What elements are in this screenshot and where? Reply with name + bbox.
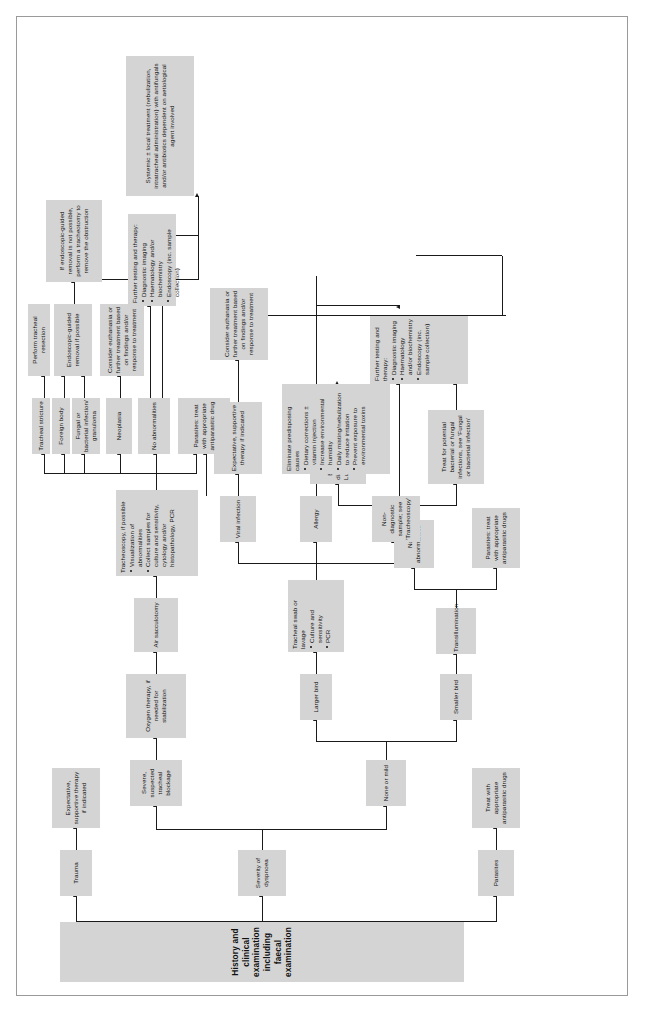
connector-tracheoscopy-neoplasia — [120, 454, 121, 474]
connector-viral-tx — [238, 474, 239, 496]
node-tracheal-swab[interactable]: Tracheal swab or lavage Culture and sens… — [288, 580, 344, 652]
node-neoplasia-label: Neoplasia — [115, 400, 123, 452]
connector-noabnbot-further — [150, 306, 151, 398]
node-severity-of-dyspnoea[interactable]: Severity of dyspnoea — [238, 850, 286, 896]
node-foreign-body-label: Foreign body — [57, 400, 65, 452]
node-endoscopic-removal-label: Endoscopic-guided removal if possible — [65, 306, 81, 374]
connector-severity-severe — [156, 806, 157, 830]
bullet: Daily misting/nebulization to reduce irr… — [335, 387, 351, 465]
node-tracheoscopy-bullets: Visualization of abnormalities Collect s… — [128, 493, 176, 573]
connector-swab-out — [316, 564, 317, 580]
connector-larger-swab — [316, 652, 317, 674]
connector-title-parasites — [496, 896, 497, 922]
node-allergy[interactable]: Allergy — [300, 496, 332, 542]
node-consider-euthanasia-top[interactable]: Consider euthanasia or further treatment… — [210, 288, 268, 360]
connector-oxygen-airsac — [156, 652, 157, 674]
connector-endo-tracheotomy — [74, 282, 75, 304]
node-fungal-label: Fungal or bacterial infection/ granuloma — [74, 400, 98, 452]
node-non-diagnostic-sample[interactable]: Non-diagnostic sample; see 'Tracheoscopy… — [372, 496, 420, 542]
node-none-or-mild-label: None or mild — [382, 762, 390, 804]
node-systemic-treatment-label: Systemic ± local treatment (nebulization… — [144, 58, 176, 194]
connector-swab-viral — [238, 542, 239, 564]
node-neoplasia[interactable]: Neoplasia — [106, 398, 132, 454]
bullet: Collect samples for culture and sensitiv… — [144, 493, 176, 567]
connector-translum-noabn — [414, 568, 415, 590]
connector-noabntop-budgerigar — [338, 484, 339, 506]
connector-title-trauma — [76, 896, 77, 922]
bullet: Dietary corrections ± vitamin injection — [302, 387, 318, 465]
bullet: Diagnostic imaging — [140, 217, 148, 297]
node-severity-label: Severity of dyspnoea — [254, 852, 270, 894]
bullet: Culture and sensitivity — [308, 583, 324, 643]
connector-noabntop-treatpotential — [456, 484, 457, 506]
connector-tracheoscopy-stricture — [44, 454, 45, 474]
connector-tracheoscopy-out — [156, 474, 157, 490]
node-trauma-label: Trauma — [72, 852, 80, 894]
connector-title-severity — [262, 896, 263, 922]
connector-stricture-resection — [44, 376, 45, 398]
node-tracheoscopy[interactable]: Tracheoscopy, if possible Visualization … — [116, 490, 198, 576]
node-endoscopic-guided-removal[interactable]: Endoscopic-guided removal if possible — [54, 304, 92, 376]
node-smaller-bird[interactable]: Smaller bird — [440, 674, 472, 720]
node-fungal-bacterial-granuloma[interactable]: Fungal or bacterial infection/ granuloma — [72, 398, 100, 454]
node-none-or-mild[interactable]: None or mild — [366, 760, 406, 806]
node-further-testing-top-header: Further testing and therapy: — [373, 319, 389, 381]
node-tracheotomy[interactable]: If endoscopic-guided removal is not poss… — [46, 200, 102, 282]
node-air-sacculotomy[interactable]: Air sacculotomy — [134, 598, 178, 652]
connector-noabntop-further — [399, 384, 400, 506]
node-trauma[interactable]: Trauma — [60, 850, 92, 896]
node-further-testing-bottom-header: Further testing and therapy: — [131, 217, 139, 303]
node-viral-infection[interactable]: Viral infection — [220, 496, 256, 542]
node-further-testing-top[interactable]: Further testing and therapy: Diagnostic … — [370, 316, 468, 384]
connector-nonemild-smaller — [456, 720, 457, 742]
bullet: Visualization of abnormalities — [128, 493, 144, 567]
node-no-abnormalities-bottom[interactable]: No abnormalities — [138, 398, 170, 454]
node-parasites-treatment-label: Treat with appropriate antiparasitic dru… — [484, 770, 508, 826]
connector-tracheoscopy-parasites — [196, 454, 197, 474]
connector-swab-allergy — [316, 542, 317, 564]
node-severe-tracheal-blockage[interactable]: Severe, suspected tracheal blockage — [130, 760, 182, 806]
node-parasites-tracheoscopy[interactable]: Parasites: treat with appropriate antipa… — [178, 398, 230, 454]
node-parasites[interactable]: Parasites — [478, 850, 514, 896]
connector-foreign-endo — [64, 376, 65, 398]
node-air-sacculotomy-label: Air sacculotomy — [152, 600, 160, 650]
node-tracheal-resection-label: Perform tracheal resection — [31, 306, 47, 374]
node-eliminate-predisposing-causes[interactable]: Eliminate predisposing causes Dietary co… — [282, 384, 390, 474]
node-treat-potential-infection[interactable]: Treat for potential bacterial or fungal … — [428, 410, 484, 484]
node-transillumination[interactable]: Transillumination — [436, 608, 476, 654]
node-title: History and clinical examination includi… — [60, 922, 464, 982]
connector-nondiag-parasitestr — [206, 454, 207, 496]
node-tracheal-stricture[interactable]: Tracheal stricture — [32, 398, 50, 454]
node-transillumination-parasites[interactable]: Parasites: treat with appropriate antipa… — [472, 508, 520, 568]
node-eliminate-bullets: Dietary corrections ± vitamin injection … — [302, 387, 367, 471]
connector-smaller-translum — [456, 654, 457, 674]
node-consider-euthanasia-bottom[interactable]: Consider euthanasia or further treatment… — [100, 304, 144, 376]
connector-trauma-tx — [76, 828, 77, 850]
connector-severity-nonemild — [386, 806, 387, 830]
node-severe-label: Severe, suspected tracheal blockage — [140, 762, 172, 804]
node-trauma-treatment-label: Expectative, supportive therapy if indic… — [64, 770, 88, 826]
node-systemic-local-treatment[interactable]: Systemic ± local treatment (nebulization… — [126, 56, 194, 196]
connector-viraltx-considereu — [238, 360, 239, 402]
node-larger-bird[interactable]: Larger bird — [300, 674, 332, 720]
connector-tracheoscopy-noabn — [156, 454, 157, 474]
flowchart-canvas: History and clinical examination includi… — [16, 16, 628, 996]
connector-eliminate-right — [316, 276, 317, 384]
connector-eliminate-up — [316, 305, 400, 306]
node-parasites-treatment[interactable]: Treat with appropriate antiparasitic dru… — [472, 768, 520, 828]
node-tracheal-swab-bullets: Culture and sensitivity PCR — [308, 583, 332, 649]
connector-severe-oxygen — [156, 738, 157, 760]
bullet: Haematology and/or biochemistry — [398, 319, 414, 375]
connector-fungal-endo — [84, 376, 85, 398]
node-oxygen-therapy[interactable]: Oxygen therapy, if needed for stabilizat… — [126, 674, 186, 738]
connector-tracheoscopy-foreign — [64, 454, 65, 474]
connector-fungal-systemic-h — [198, 196, 199, 280]
node-trauma-treatment[interactable]: Expectative, supportive therapy if indic… — [52, 768, 100, 828]
node-treat-potential-label: Treat for potential bacterial or fungal … — [440, 412, 472, 482]
node-foreign-body[interactable]: Foreign body — [52, 398, 70, 454]
connector-nonemild-out — [386, 742, 387, 760]
connector-severity-split — [156, 829, 386, 830]
connector-tracheoscopy-fungal — [84, 454, 85, 474]
node-tracheal-resection[interactable]: Perform tracheal resection — [28, 304, 50, 376]
node-further-testing-bottom[interactable]: Further testing and therapy: Diagnostic … — [128, 214, 176, 306]
